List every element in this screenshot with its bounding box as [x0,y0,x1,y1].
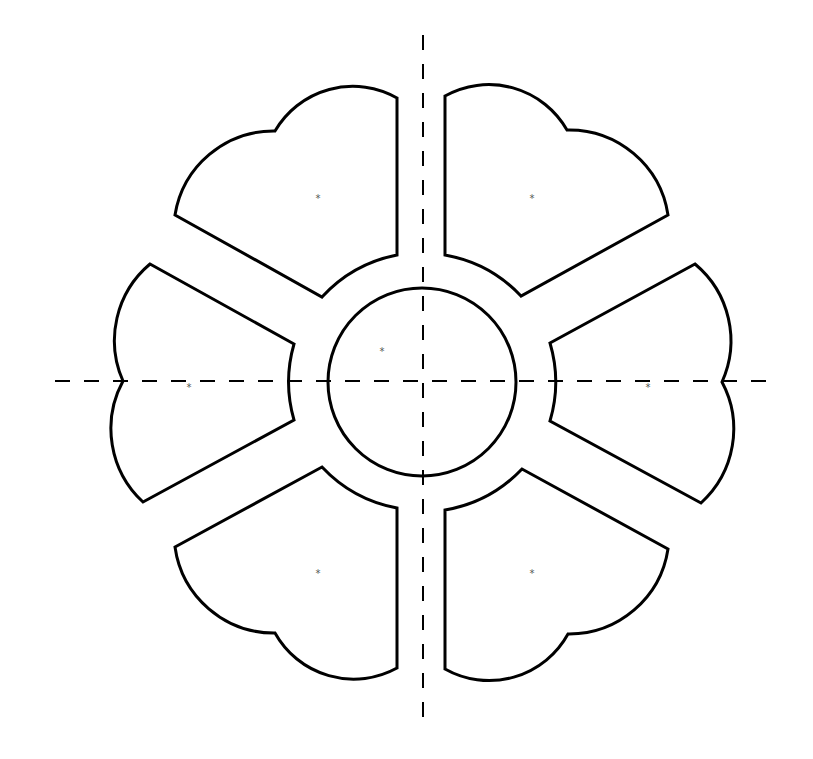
petal-bottom-left [175,467,397,679]
petal-marker-bottom-left: * [316,568,321,579]
flower-diagram: * * * * * * * [0,0,813,759]
petal-right [550,264,734,503]
center-marker: * [380,346,385,357]
petal-top-right [445,85,668,296]
petal-marker-bottom-right: * [530,568,535,579]
petal-top-left [175,86,397,297]
petal-marker-left: * [187,382,192,393]
petal-marker-right: * [646,382,651,393]
petal-marker-top-right: * [530,193,535,204]
petal-marker-top-left: * [316,193,321,204]
petal-left [111,264,294,502]
petal-bottom-right [445,469,668,681]
